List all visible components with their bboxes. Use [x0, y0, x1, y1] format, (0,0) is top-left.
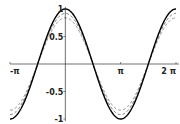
y-tick-label: 1	[58, 5, 64, 14]
y-tick-label: -1	[54, 115, 63, 124]
y-tick-label: -0.5	[46, 88, 64, 97]
chart-plot: -ππ2 π10.5-0.5-1	[0, 0, 180, 124]
chart-axes	[10, 7, 179, 121]
x-tick-label: 2 π	[161, 67, 176, 76]
x-tick-label: π	[118, 67, 124, 76]
x-tick-label: -π	[10, 67, 20, 76]
y-tick-label: 0.5	[49, 33, 64, 42]
